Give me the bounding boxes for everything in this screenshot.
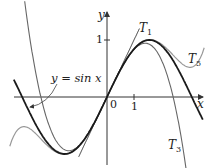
x-tick-1-label: 1: [131, 101, 138, 112]
t1-label: T1: [139, 22, 152, 34]
t3-label-main: T: [168, 138, 176, 152]
t1-label-main: T: [139, 21, 147, 35]
origin-label: 0: [110, 99, 117, 110]
t3-curve: [25, 1, 187, 168]
sine-curve-label: y = sin x: [51, 73, 102, 85]
y-axis-label: y: [98, 9, 105, 21]
t3-label: T3: [168, 139, 181, 151]
t3-label-sub: 3: [176, 145, 181, 154]
t1-label-sub: 1: [147, 28, 152, 37]
x-axis-label: x: [197, 98, 204, 110]
y-tick-1-label: 1: [96, 34, 103, 45]
label-pointer-arrow: [30, 84, 57, 107]
t5-label-sub: 5: [196, 59, 201, 68]
t5-label-main: T: [188, 52, 196, 66]
taylor-polynomials-figure: y x 0 1 1 y = sin x T1 T5 T3: [0, 0, 213, 168]
t5-label: T5: [188, 53, 201, 65]
